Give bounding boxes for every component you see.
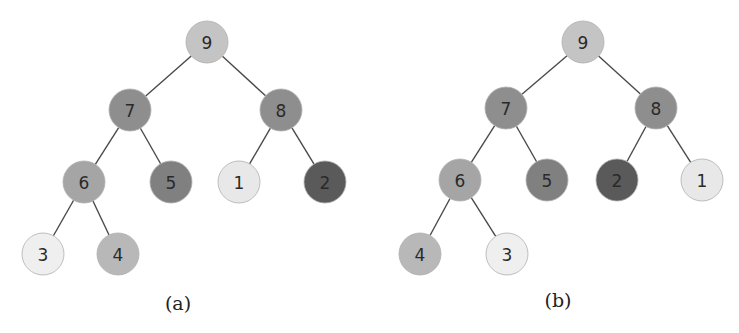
tree-node: 9 <box>562 21 604 63</box>
tree-node: 3 <box>486 233 528 275</box>
tree-node: 8 <box>635 87 677 129</box>
tree-edge <box>250 128 271 164</box>
node-label: 7 <box>125 101 136 121</box>
tree-edge <box>53 200 73 236</box>
tree-edge <box>222 56 265 96</box>
node-label: 7 <box>501 99 512 119</box>
tree-node: 6 <box>439 159 481 201</box>
node-label: 4 <box>113 245 124 265</box>
tree-node: 2 <box>596 159 638 201</box>
tree-node: 6 <box>63 161 105 203</box>
tree-node: 3 <box>22 233 64 275</box>
node-label: 8 <box>651 99 662 119</box>
tree-edge <box>430 198 450 235</box>
node-label: 6 <box>79 173 90 193</box>
tree-edge <box>140 128 160 164</box>
figure-caption: (a) <box>165 292 191 314</box>
tree-edge <box>627 126 646 161</box>
tree-node: 2 <box>304 161 346 203</box>
tree-edge <box>95 128 118 165</box>
figure-caption: (b) <box>545 289 572 311</box>
tree-figure-b: 978652143(b) <box>399 21 723 311</box>
node-label: 3 <box>38 245 49 265</box>
tree-edge <box>292 128 314 164</box>
tree-edge <box>522 56 567 95</box>
tree-node: 9 <box>186 21 228 63</box>
node-label: 8 <box>276 101 287 121</box>
tree-edge <box>93 201 109 235</box>
tree-node: 4 <box>399 233 441 275</box>
tree-node: 4 <box>97 233 139 275</box>
node-label: 9 <box>202 33 213 53</box>
tree-figure-a: 978651234(a) <box>22 21 346 314</box>
tree-node: 7 <box>109 89 151 131</box>
node-label: 2 <box>612 171 623 191</box>
node-label: 5 <box>166 173 177 193</box>
node-label: 2 <box>320 173 331 193</box>
tree-edge <box>667 126 690 163</box>
tree-edge <box>471 126 494 163</box>
heap-tree-diagram: 978651234(a)978652143(b) <box>0 0 739 333</box>
tree-node: 1 <box>218 161 260 203</box>
node-label: 1 <box>697 171 708 191</box>
node-label: 3 <box>502 245 513 265</box>
tree-node: 1 <box>681 159 723 201</box>
tree-node: 5 <box>150 161 192 203</box>
tree-edge <box>516 126 536 162</box>
tree-node: 5 <box>526 159 568 201</box>
tree-edge <box>599 56 641 94</box>
node-label: 5 <box>542 171 553 191</box>
node-label: 1 <box>234 173 245 193</box>
tree-node: 7 <box>485 87 527 129</box>
tree-edge <box>471 198 495 237</box>
node-label: 4 <box>415 245 426 265</box>
tree-node: 8 <box>260 89 302 131</box>
node-label: 6 <box>455 171 466 191</box>
tree-edge <box>146 56 192 96</box>
node-label: 9 <box>578 33 589 53</box>
